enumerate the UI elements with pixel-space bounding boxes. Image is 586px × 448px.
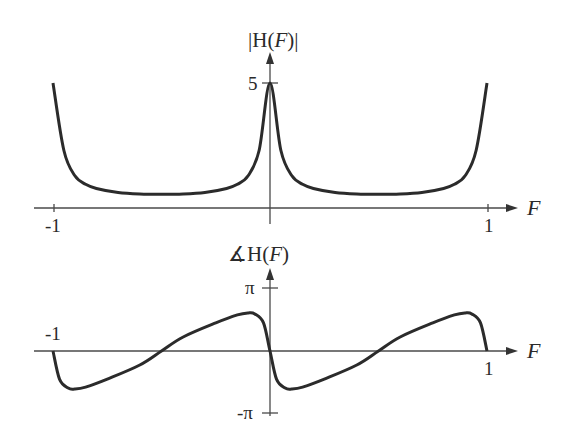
title-var: F	[269, 242, 282, 266]
bottom-x-tick-label-1: 1	[484, 359, 494, 378]
top-x-axis-label: F	[527, 197, 540, 219]
chart-canvas	[0, 0, 586, 448]
top-y-tick-label-5: 5	[248, 74, 258, 93]
bottom-plot-title: ∡H(F)	[228, 244, 289, 265]
top-x-tick-label-neg1: -1	[45, 216, 61, 235]
title-var: F	[274, 28, 287, 52]
top-axes	[34, 52, 518, 224]
bottom-axes	[34, 268, 518, 416]
top-y-arrow-icon	[266, 52, 274, 64]
bottom-x-axis-label: F	[527, 340, 540, 362]
abs-bar-right: |	[294, 28, 298, 52]
bottom-y-tick-label-pi: π	[245, 278, 255, 297]
title-func: H(	[252, 28, 274, 52]
top-plot-title: |H(F)|	[248, 30, 298, 51]
bottom-y-arrow-icon	[266, 268, 274, 280]
top-x-arrow-icon	[506, 204, 518, 212]
bottom-x-tick-label-neg1: -1	[45, 324, 61, 343]
bottom-y-tick-label-neg-pi: -π	[237, 403, 253, 422]
title-close: )	[282, 242, 289, 266]
bottom-x-arrow-icon	[506, 347, 518, 355]
top-x-tick-label-1: 1	[484, 216, 494, 235]
angle-icon: ∡	[228, 242, 247, 266]
title-func: H(	[247, 242, 269, 266]
